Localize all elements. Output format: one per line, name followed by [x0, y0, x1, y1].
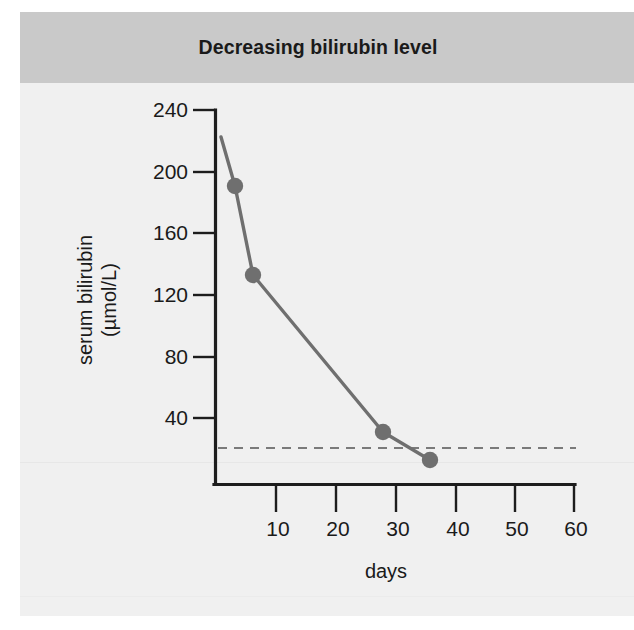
y-tick-label-40: 40	[165, 406, 188, 429]
x-axis-title: days	[365, 560, 407, 582]
data-point-1	[227, 178, 243, 194]
figure-root: Decreasing bilirubin level 240 200 160 1…	[0, 0, 634, 630]
x-tick-label-10: 10	[266, 517, 289, 540]
x-tick-labels: 10 20 30 40 50 60	[266, 517, 587, 540]
x-tick-label-40: 40	[446, 517, 469, 540]
y-tick-label-240: 240	[153, 98, 188, 121]
data-point-3	[375, 424, 391, 440]
y-tick-label-80: 80	[165, 345, 188, 368]
x-tick-label-20: 20	[326, 517, 349, 540]
x-tick-label-60: 60	[564, 517, 587, 540]
y-axis-title: serum bilirubin (µmol/L)	[74, 235, 120, 365]
y-axis-title-line2: (µmol/L)	[98, 263, 120, 337]
y-tick-marks	[193, 110, 215, 418]
y-tick-label-120: 120	[153, 283, 188, 306]
bilirubin-series-line	[221, 137, 430, 460]
chart-svg: 240 200 160 120 80 40 10 20 30 40 50 60	[0, 0, 634, 630]
x-tick-marks	[276, 484, 574, 512]
y-tick-label-200: 200	[153, 160, 188, 183]
data-point-4	[422, 452, 438, 468]
y-tick-labels: 240 200 160 120 80 40	[153, 98, 188, 429]
y-tick-label-160: 160	[153, 221, 188, 244]
data-point-2	[245, 267, 261, 283]
x-tick-label-30: 30	[386, 517, 409, 540]
bilirubin-series-markers	[227, 178, 438, 468]
y-axis-title-line1: serum bilirubin	[74, 235, 96, 365]
x-tick-label-50: 50	[505, 517, 528, 540]
